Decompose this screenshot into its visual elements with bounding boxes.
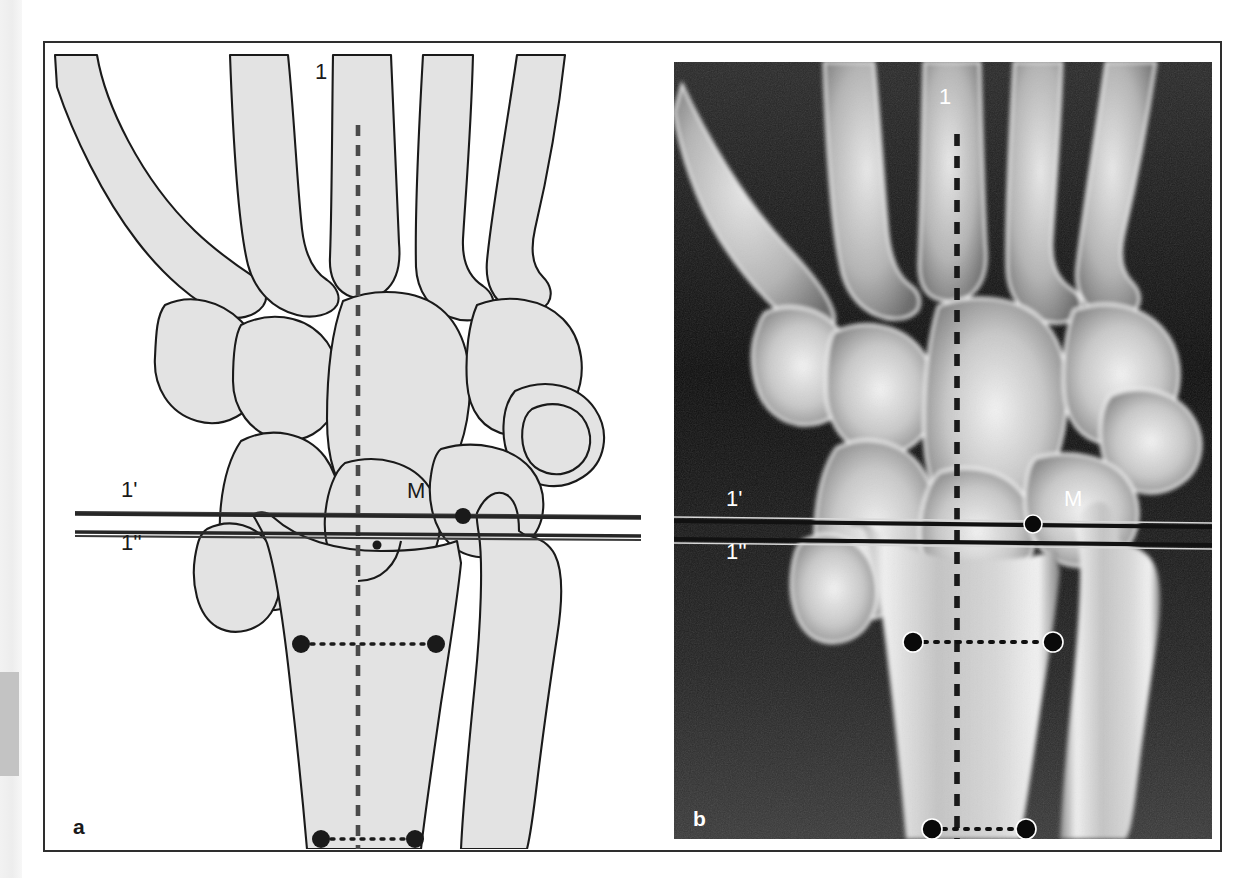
panel-b-letter: b	[693, 807, 706, 831]
xray-caliper-proximal-right-point	[1043, 632, 1063, 652]
bone-third-metacarpal	[330, 55, 400, 298]
xray-caliper-distal-left-point	[922, 819, 942, 839]
bone-fifth-metacarpal	[487, 55, 565, 312]
panel-a-line-upper-label: 1'	[121, 477, 137, 503]
bone-trapezoid	[233, 317, 339, 441]
wrist-radiograph: .xb{stroke:#ffffff;stroke-width:2.2;} .x…	[674, 62, 1212, 839]
caliper-distal-left-point	[312, 830, 330, 848]
caliper-distal-right-point	[406, 830, 424, 848]
bone-fourth-metacarpal	[416, 55, 494, 320]
point-M-marker	[455, 508, 471, 524]
reference-line-1-double-prime	[75, 532, 641, 536]
panel-a-point-M-label: M	[407, 478, 425, 504]
panel-a-letter: a	[73, 815, 85, 839]
xray-point-M-marker	[1024, 515, 1042, 533]
panel-a-line-lower-label: 1''	[121, 530, 142, 556]
caliper-proximal-left-point	[292, 635, 310, 653]
page-margin-gray-block	[0, 672, 19, 776]
xray-caliper-proximal-left-point	[903, 632, 923, 652]
figure-frame: .bone{fill:#e3e3e3;stroke:#1a1a1a;stroke…	[43, 41, 1222, 852]
bone-radius	[253, 512, 461, 849]
radius-internal-point	[373, 541, 382, 550]
panel-b-point-M-label: M	[1064, 486, 1082, 512]
panel-b-line-lower-label: 1''	[726, 539, 747, 565]
panel-b-axis-label: 1	[939, 84, 951, 110]
xray-caliper-distal-right-point	[1016, 819, 1036, 839]
panel-a-axis-label: 1	[315, 59, 327, 85]
panel-b-line-upper-label: 1'	[726, 486, 742, 512]
wrist-line-diagram: .bone{fill:#e3e3e3;stroke:#1a1a1a;stroke…	[45, 43, 660, 849]
panel-b-radiograph: .xb{stroke:#ffffff;stroke-width:2.2;} .x…	[674, 62, 1212, 839]
caliper-proximal-right-point	[427, 635, 445, 653]
panel-a-line-diagram: .bone{fill:#e3e3e3;stroke:#1a1a1a;stroke…	[45, 43, 660, 849]
